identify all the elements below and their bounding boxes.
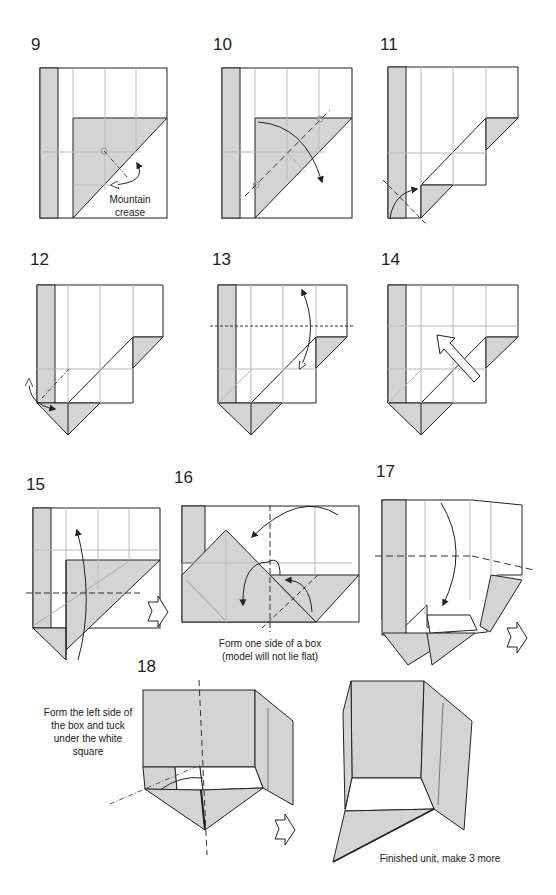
step-number: 13 [212,250,231,270]
finished-unit-diagram [333,681,472,862]
step-number: 16 [174,468,193,488]
step-number: 14 [381,250,400,270]
step-number: 12 [30,250,49,270]
origami-diagram [0,0,556,895]
next-view-arrow [275,814,295,845]
step-14-diagram [388,285,518,435]
step-11-diagram [383,67,518,226]
step-15-diagram [26,508,168,660]
step-16-diagram [182,505,359,632]
step-number: 10 [213,35,232,55]
step-number: 17 [376,462,395,482]
step-12-diagram [29,285,163,435]
step-number: 15 [26,475,45,495]
finished-caption: Finished unit, make 3 more [370,852,510,865]
step-18-caption: Form the left side of the box and tuck u… [38,706,138,758]
step-9-caption: Mountain crease [100,193,160,219]
step-13-diagram [210,285,355,435]
next-view-arrow [507,622,527,653]
step-number: 18 [137,657,156,677]
step-17-diagram [375,500,534,665]
step-number: 11 [380,35,398,55]
step-10-diagram [222,68,352,218]
step-16-caption: Form one side of a box (model will not l… [205,637,335,663]
step-number: 9 [31,35,40,55]
